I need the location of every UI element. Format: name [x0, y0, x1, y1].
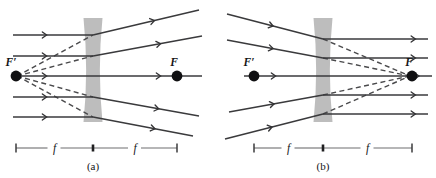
ruler-label-left-f: f — [53, 142, 58, 155]
ruler-label-right-f: f — [133, 142, 138, 155]
focal-label-f: F — [169, 56, 178, 68]
focal-label-f: F — [404, 56, 413, 68]
focal-point-f-prime — [249, 71, 260, 82]
ray-4-outgoing — [93, 97, 199, 116]
ray-1-outgoing — [93, 10, 199, 35]
panel-a: F′Fff(a) — [5, 10, 202, 173]
ray-5-outgoing — [93, 117, 193, 136]
ray-1 — [13, 10, 199, 38]
ray-2-incoming — [227, 40, 323, 58]
panel-caption-a: (a) — [87, 160, 100, 173]
diverging-lens — [314, 18, 333, 122]
ray-2-outgoing — [93, 36, 202, 56]
ruler-b: ff — [254, 142, 412, 155]
virtual-ray-2 — [17, 56, 93, 76]
panel-b: F′Fff(b) — [225, 14, 432, 173]
ray-diagram-canvas: F′Fff(a)F′Fff(b) — [0, 0, 436, 178]
ray-4 — [13, 94, 199, 116]
ruler-a: ff — [16, 142, 177, 155]
focal-point-f — [407, 71, 418, 82]
ray-4-incoming — [229, 95, 323, 112]
virtual-ray-4 — [17, 76, 93, 97]
virtual-ray-2 — [323, 58, 410, 76]
ruler-label-left-f: f — [287, 142, 292, 155]
ruler-label-right-f: f — [366, 142, 371, 155]
panel-caption-b: (b) — [317, 160, 330, 173]
virtual-ray-4 — [323, 76, 410, 95]
panels-group: F′Fff(a)F′Fff(b) — [5, 10, 432, 173]
focal-label-f-prime: F′ — [5, 56, 17, 68]
focal-point-f-prime — [11, 71, 22, 82]
focal-label-f-prime: F′ — [243, 56, 255, 68]
optics-figure: F′Fff(a)F′Fff(b) — [0, 0, 436, 178]
focal-point-f — [172, 71, 183, 82]
ray-1-incoming — [227, 14, 323, 39]
ray-5-incoming — [225, 114, 323, 139]
ray-5 — [13, 114, 193, 136]
